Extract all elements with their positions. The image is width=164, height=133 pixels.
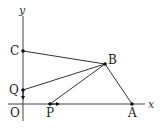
x-axis-label: x (148, 98, 155, 111)
y-axis-label: y (18, 4, 26, 17)
label-Q: Q (9, 83, 19, 97)
point-B (103, 62, 107, 66)
origin-label: O (10, 106, 20, 120)
segment-PB (50, 64, 105, 104)
segment-CB (23, 51, 105, 64)
label-C: C (10, 44, 19, 58)
arrow-down-icon (21, 91, 25, 100)
label-P: P (46, 106, 54, 120)
label-A: A (127, 106, 137, 120)
label-B: B (108, 53, 117, 67)
point-C (21, 49, 25, 53)
coordinate-diagram: y x O C Q B P A (0, 0, 164, 133)
segment-QB (23, 64, 105, 90)
segment-BA (105, 64, 132, 104)
